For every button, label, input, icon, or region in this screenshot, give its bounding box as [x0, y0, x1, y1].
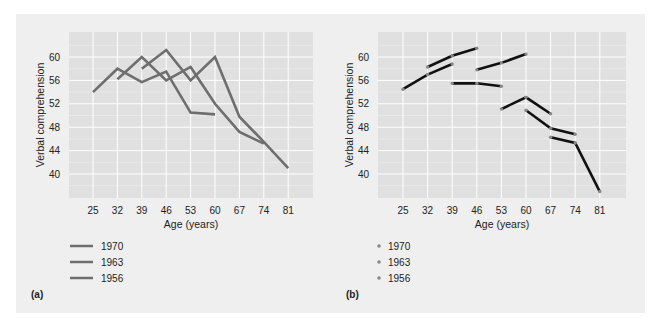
- legend-label-1970: 1970: [388, 241, 411, 252]
- data-point-marker: [574, 133, 577, 136]
- data-point-marker: [500, 85, 503, 88]
- legend-b: 1970 1963 1956: [377, 241, 410, 284]
- x-tick-label: 81: [594, 205, 606, 216]
- data-point-marker: [524, 109, 527, 112]
- y-tick-label: 44: [49, 145, 61, 156]
- x-ticks-b: 253239465360677481: [397, 205, 605, 216]
- legend-label-1963: 1963: [101, 257, 124, 268]
- x-tick-label: 60: [209, 205, 221, 216]
- data-point-marker: [426, 65, 429, 68]
- y-tick-label: 48: [358, 122, 370, 133]
- x-tick-label: 32: [422, 205, 434, 216]
- legend-dot-icon: [377, 244, 381, 248]
- x-tick-label: 39: [447, 205, 459, 216]
- y-ticks-a: 404448525660: [49, 52, 61, 180]
- data-point-marker: [451, 62, 454, 65]
- x-tick-label: 81: [283, 205, 295, 216]
- panel-label-b: (b): [346, 289, 359, 300]
- x-tick-label: 67: [545, 205, 557, 216]
- x-tick-label: 39: [136, 205, 148, 216]
- x-tick-label: 67: [234, 205, 246, 216]
- legend-a: 1970 1963 1956: [70, 241, 124, 284]
- x-axis-label-a: Age (years): [164, 218, 218, 230]
- data-point-marker: [549, 135, 552, 138]
- y-tick-label: 40: [49, 169, 61, 180]
- data-point-marker: [451, 54, 454, 57]
- y-tick-label: 52: [358, 98, 370, 109]
- y-tick-label: 48: [49, 122, 61, 133]
- y-ticks-b: 404448525660: [358, 52, 370, 180]
- legend-label-1970: 1970: [101, 241, 124, 252]
- legend-label-1956: 1956: [101, 273, 124, 284]
- data-point-marker: [475, 82, 478, 85]
- data-point-marker: [524, 52, 527, 55]
- y-tick-label: 40: [358, 169, 370, 180]
- data-point-marker: [549, 112, 552, 115]
- y-axis-label-b: Verbal comprehension: [343, 63, 355, 168]
- x-tick-label: 46: [161, 205, 173, 216]
- data-point-marker: [475, 47, 478, 50]
- data-point-marker: [451, 82, 454, 85]
- legend-dot-icon: [377, 276, 381, 280]
- x-tick-label: 53: [496, 205, 508, 216]
- x-tick-label: 74: [570, 205, 582, 216]
- data-point-marker: [500, 107, 503, 110]
- data-point-marker: [549, 127, 552, 130]
- x-tick-label: 25: [397, 205, 409, 216]
- y-tick-label: 60: [49, 52, 61, 63]
- data-point-marker: [574, 141, 577, 144]
- data-point-marker: [401, 87, 404, 90]
- legend-label-1963: 1963: [388, 257, 411, 268]
- x-ticks-a: 253239465360677481: [87, 205, 294, 216]
- x-tick-label: 53: [185, 205, 197, 216]
- legend-dot-icon: [377, 260, 381, 264]
- x-axis-label-b: Age (years): [475, 218, 529, 230]
- x-tick-label: 46: [471, 205, 483, 216]
- data-point-marker: [475, 68, 478, 71]
- chart-a: 404448525660 253239465360677481 Verbal c…: [0, 0, 661, 328]
- x-tick-label: 74: [258, 205, 270, 216]
- y-tick-label: 56: [49, 75, 61, 86]
- x-tick-label: 32: [112, 205, 124, 216]
- data-point-marker: [426, 73, 429, 76]
- y-axis-label-a: Verbal comprehension: [34, 63, 46, 168]
- data-point-marker: [524, 96, 527, 99]
- x-tick-label: 25: [87, 205, 99, 216]
- x-tick-label: 60: [520, 205, 532, 216]
- data-point-marker: [598, 190, 601, 193]
- y-tick-label: 44: [358, 145, 370, 156]
- panel-label-a: (a): [31, 289, 43, 300]
- y-tick-label: 60: [358, 52, 370, 63]
- y-tick-label: 56: [358, 75, 370, 86]
- data-point-marker: [500, 61, 503, 64]
- y-tick-label: 52: [49, 98, 61, 109]
- legend-label-1956: 1956: [388, 273, 411, 284]
